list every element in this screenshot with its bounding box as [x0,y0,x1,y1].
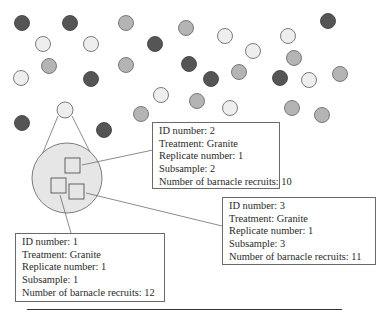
replicate-line: Replicate number: 1 [229,225,371,238]
plot-circle-light [302,73,317,88]
plot-circle-mid [333,67,348,82]
recruits-line: Number of barnacle recruits: 11 [229,251,371,264]
plot-circle-mid [42,59,57,74]
plot-circle-light [218,29,233,44]
plot-circle-mid [134,107,149,122]
plot-circle-light [281,29,296,44]
record-box-3: ID number: 3 Treatment: Granite Replicat… [222,197,376,265]
plot-circle-light [14,71,29,86]
plot-circle-light [84,37,99,52]
plot-circle-mid [190,94,205,109]
id-line: ID number: 1 [22,236,160,249]
plot-circle-dark [148,37,163,52]
plot-circle-dark [84,72,99,87]
plot-circle-dark [15,116,30,131]
plot-circle-dark [204,72,219,87]
plot-circle-mid [119,58,134,73]
plot-circle-mid [285,101,300,116]
treatment-line: Treatment: Granite [22,249,160,262]
plot-circle-mid [232,65,247,80]
plot-circle-mid [315,108,330,123]
quadrat-1 [51,178,66,193]
recruits-line: Number of barnacle recruits: 12 [22,287,160,300]
replicate-line: Replicate number: 1 [159,150,275,163]
plot-circle-dark [321,14,336,29]
magnified-plot [32,143,102,213]
plot-circle-light [246,44,261,59]
recruits-line: Number of barnacle recruits: 10 [159,176,275,189]
plot-circle-light [223,101,238,116]
plot-circles [14,14,348,138]
plot-circle-light [36,37,51,52]
plot-circle-mid [287,51,302,66]
subsample-line: Subsample: 3 [229,238,371,251]
treatment-line: Treatment: Granite [229,213,371,226]
plot-circle-mid [119,16,134,31]
replicate-line: Replicate number: 1 [22,261,160,274]
id-line: ID number: 3 [229,200,371,213]
plot-circle-dark [182,57,197,72]
plot-circle-mid [179,21,194,36]
record-box-1: ID number: 1 Treatment: Granite Replicat… [15,233,165,302]
treatment-line: Treatment: Granite [159,138,275,151]
subsample-line: Subsample: 1 [22,274,160,287]
plot-circle-light [154,88,169,103]
plot-circle-dark [273,71,288,86]
plot-circle-dark [63,16,78,31]
plot-circle-dark [15,16,30,31]
id-line: ID number: 2 [159,125,275,138]
quadrat-3 [69,184,84,199]
subsample-line: Subsample: 2 [159,163,275,176]
record-box-2: ID number: 2 Treatment: Granite Replicat… [152,122,280,189]
plot-circle-dark [97,123,112,138]
quadrat-2 [65,158,80,173]
selected-plot-circle [57,102,73,118]
